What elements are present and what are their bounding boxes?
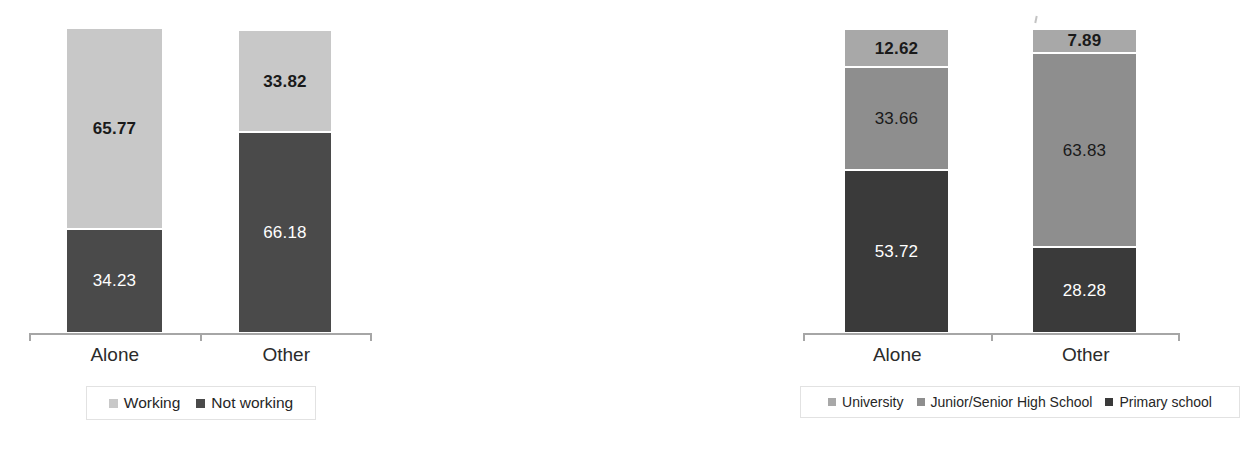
category-label-alone: Alone xyxy=(29,344,201,366)
legend-label: University xyxy=(842,394,903,410)
bar-segment-university[interactable]: 7.89 xyxy=(1032,29,1137,53)
legend-swatch-icon xyxy=(917,398,925,406)
employment-chart-panel: 65.77 34.23 33.82 66.18 Alone xyxy=(0,0,400,454)
bar-segment-working[interactable]: 65.77 xyxy=(66,28,163,229)
bar-segment-working[interactable]: 33.82 xyxy=(238,30,332,132)
bar-education-other[interactable]: 7.89 63.83 28.28 xyxy=(1032,29,1137,333)
legend-item-working[interactable]: Working xyxy=(109,394,181,412)
bar-segment-primary-school[interactable]: 28.28 xyxy=(1032,247,1137,333)
scan-artifact xyxy=(1034,16,1037,23)
axis-tick-middle xyxy=(200,334,202,341)
data-label-highschool-other: 63.83 xyxy=(1063,142,1107,159)
category-label-other: Other xyxy=(992,344,1181,366)
data-label-not-working-other: 66.18 xyxy=(263,224,307,241)
data-label-primary-alone: 53.72 xyxy=(875,243,919,260)
legend-label: Working xyxy=(124,394,181,412)
legend-item-university[interactable]: University xyxy=(828,394,903,410)
legend-swatch-icon xyxy=(196,399,205,408)
bar-segment-primary-school[interactable]: 53.72 xyxy=(844,170,949,333)
education-legend: University Junior/Senior High School Pri… xyxy=(800,386,1240,418)
bar-employment-other[interactable]: 33.82 66.18 xyxy=(238,30,332,333)
legend-item-junior-senior-high-school[interactable]: Junior/Senior High School xyxy=(917,394,1093,410)
legend-item-not-working[interactable]: Not working xyxy=(196,394,293,412)
data-label-primary-other: 28.28 xyxy=(1063,282,1107,299)
legend-label: Not working xyxy=(211,394,293,412)
data-label-working-other: 33.82 xyxy=(263,73,307,90)
data-label-working-alone: 65.77 xyxy=(93,120,137,137)
employment-plot-area: 65.77 34.23 33.82 66.18 xyxy=(29,14,372,335)
data-label-not-working-alone: 34.23 xyxy=(93,272,137,289)
bar-segment-not-working[interactable]: 34.23 xyxy=(66,229,163,333)
employment-category-labels: Alone Other xyxy=(29,344,372,374)
legend-label: Primary school xyxy=(1119,394,1212,410)
axis-tick-end xyxy=(1178,334,1180,341)
bar-segment-junior-senior-high-school[interactable]: 63.83 xyxy=(1032,53,1137,247)
education-chart-panel: 12.62 33.66 53.72 7.89 63.83 28.28 xyxy=(400,0,856,454)
bar-segment-not-working[interactable]: 66.18 xyxy=(238,132,332,333)
axis-tick-end xyxy=(370,334,372,341)
data-label-university-alone: 12.62 xyxy=(875,40,919,57)
legend-swatch-icon xyxy=(828,398,836,406)
axis-tick-start xyxy=(29,334,31,341)
education-plot-area: 12.62 33.66 53.72 7.89 63.83 28.28 xyxy=(803,14,1180,335)
legend-label: Junior/Senior High School xyxy=(931,394,1093,410)
category-label-other: Other xyxy=(201,344,373,366)
legend-swatch-icon xyxy=(1105,398,1113,406)
education-category-labels: Alone Other xyxy=(803,344,1180,374)
data-label-highschool-alone: 33.66 xyxy=(875,110,919,127)
bar-employment-alone[interactable]: 65.77 34.23 xyxy=(66,28,163,333)
bar-education-alone[interactable]: 12.62 33.66 53.72 xyxy=(844,29,949,333)
axis-tick-start xyxy=(803,334,805,341)
employment-legend: Working Not working xyxy=(86,386,316,420)
bar-segment-university[interactable]: 12.62 xyxy=(844,29,949,67)
legend-item-primary-school[interactable]: Primary school xyxy=(1105,394,1212,410)
data-label-university-other: 7.89 xyxy=(1068,32,1102,49)
category-label-alone: Alone xyxy=(803,344,992,366)
axis-tick-middle xyxy=(991,334,993,341)
bar-segment-junior-senior-high-school[interactable]: 33.66 xyxy=(844,67,949,169)
legend-swatch-icon xyxy=(109,399,118,408)
